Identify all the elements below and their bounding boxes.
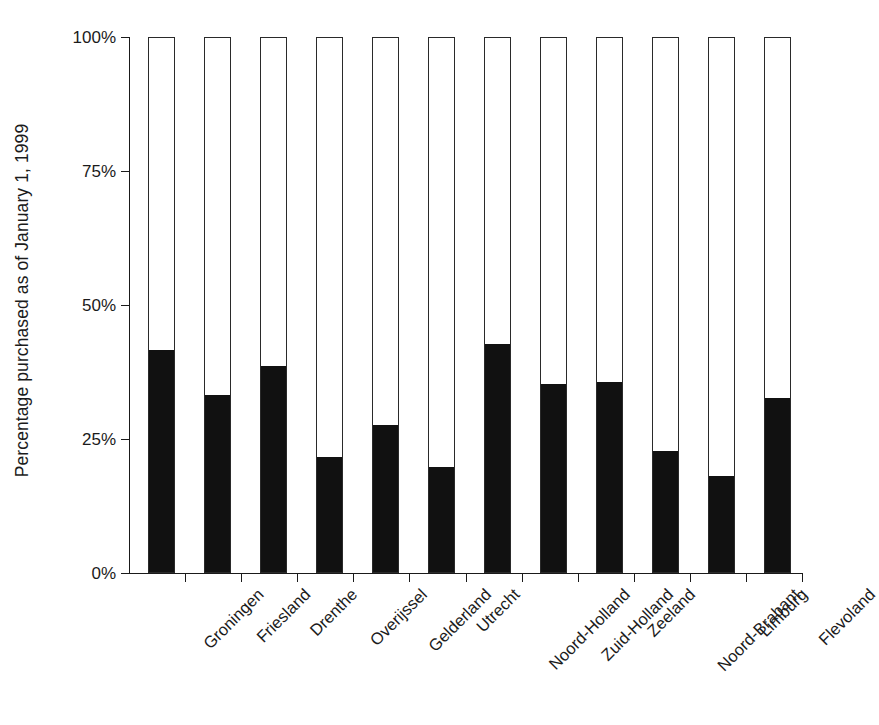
x-axis-tick (634, 573, 635, 582)
bar (540, 37, 567, 573)
y-axis-tick-label: 75% (82, 160, 116, 184)
bar-fill (317, 457, 342, 572)
x-axis-tick (690, 573, 691, 582)
bar-fill (149, 350, 174, 572)
bar (764, 37, 791, 573)
y-axis-tick: 100% (121, 37, 129, 38)
x-axis-label: Flevoland (815, 585, 879, 649)
bar-fill (485, 344, 510, 572)
y-axis-tick: 25% (121, 439, 129, 440)
y-axis-title: Percentage purchased as of January 1, 19… (13, 123, 34, 476)
x-axis-label: Overijssel (366, 585, 431, 650)
bar (148, 37, 175, 573)
bar (484, 37, 511, 573)
x-axis-tick (578, 573, 579, 582)
plot-area: 0%25%50%75%100% (129, 37, 802, 573)
y-axis-tick-label: 25% (82, 428, 116, 452)
bar-fill (373, 425, 398, 572)
x-axis-tick (802, 573, 803, 582)
bar-fill (541, 384, 566, 572)
y-axis-title-container: Percentage purchased as of January 1, 19… (0, 0, 46, 600)
y-axis-tick: 50% (121, 305, 129, 306)
bar-fill (429, 467, 454, 572)
bar (428, 37, 455, 573)
x-axis-label: Drenthe (306, 585, 361, 640)
bar-fill (205, 395, 230, 572)
bar (708, 37, 735, 573)
bar-fill (653, 451, 678, 572)
bar-fill (597, 382, 622, 572)
y-axis-line (129, 37, 130, 573)
x-axis-tick (297, 573, 298, 582)
x-axis-tick (353, 573, 354, 582)
x-axis-tick (185, 573, 186, 582)
y-axis-tick: 0% (121, 573, 129, 574)
x-axis-tick (466, 573, 467, 582)
y-axis-tick-label: 100% (73, 26, 116, 50)
bar (260, 37, 287, 573)
bar (204, 37, 231, 573)
x-axis-tick (522, 573, 523, 582)
bar-fill (765, 398, 790, 572)
bar (372, 37, 399, 573)
y-axis-tick: 75% (121, 171, 129, 172)
bar-fill (709, 476, 734, 572)
x-axis-tick (409, 573, 410, 582)
x-axis-tick (241, 573, 242, 582)
y-axis-tick-label: 50% (82, 294, 116, 318)
x-axis-tick (746, 573, 747, 582)
bar (652, 37, 679, 573)
x-axis-label: Groningen (200, 585, 268, 653)
bar (596, 37, 623, 573)
bar-fill (261, 366, 286, 572)
y-axis-tick-label: 0% (91, 562, 116, 586)
bar (316, 37, 343, 573)
